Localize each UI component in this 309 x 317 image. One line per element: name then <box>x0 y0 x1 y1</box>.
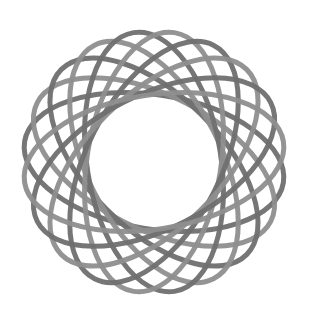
ellipse-stroke <box>67 22 240 302</box>
ellipse-stroke <box>14 22 294 302</box>
ellipse-stroke <box>14 75 294 248</box>
spirograph-rosette <box>0 0 309 317</box>
ellipse-stroke <box>67 22 240 302</box>
ellipse-stroke <box>14 22 294 302</box>
ellipse-stroke <box>14 75 294 248</box>
ellipse-group <box>7 15 301 309</box>
